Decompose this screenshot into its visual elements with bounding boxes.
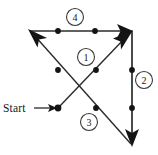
badge-2-label: 2 — [142, 75, 147, 86]
badge-2-group: 2 — [136, 72, 153, 89]
node-dot-diag1-lower — [93, 67, 99, 73]
badge-4-group: 4 — [67, 9, 84, 26]
badge-1-group: 1 — [78, 49, 95, 66]
edge-2-group — [125, 31, 139, 147]
badge-3-group: 3 — [81, 114, 98, 131]
start-marker-group: Start — [3, 102, 57, 114]
node-dot-right-lower — [129, 105, 135, 111]
start-label: Start — [3, 102, 26, 114]
path-traversal-diagram: Start 4 1 2 3 — [0, 0, 158, 155]
edge-4-group — [30, 24, 133, 38]
badge-1-label: 1 — [84, 52, 89, 63]
node-dot-top-b — [92, 28, 98, 34]
node-dot-diag3-lower — [93, 105, 99, 111]
node-dot-right-upper — [129, 67, 135, 73]
badge-4-label: 4 — [73, 12, 78, 23]
node-dot-top-a — [55, 28, 61, 34]
node-dot-diag3-upper — [55, 67, 61, 73]
badge-3-label: 3 — [87, 117, 92, 128]
diagram-canvas: Start 4 1 2 3 — [0, 0, 158, 155]
